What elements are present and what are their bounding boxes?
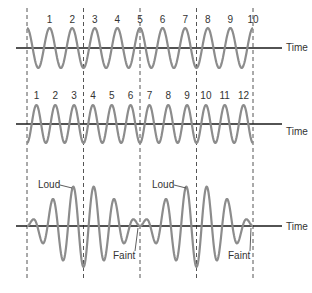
cycle-label-wave-a-10: 10 [247,15,258,25]
cycle-label-wave-b-8: 8 [165,91,171,101]
cycle-label-wave-a-2: 2 [69,15,75,25]
cycle-label-wave-b-2: 2 [52,91,58,101]
time-axis-label-top: Time [286,43,308,53]
annotation-leader-4 [250,228,251,251]
cycle-label-wave-b-12: 12 [238,91,249,101]
cycle-label-wave-b-6: 6 [128,91,134,101]
time-axis-label-middle: Time [286,127,308,137]
cycle-label-wave-b-5: 5 [109,91,115,101]
cycle-label-wave-a-4: 4 [115,15,121,25]
faint-annotation-2: Faint [228,251,250,261]
annotation-leader-1 [60,185,72,188]
cycle-label-wave-b-3: 3 [71,91,77,101]
loud-annotation-2: Loud [152,180,174,190]
cycle-label-wave-a-5: 5 [137,15,143,25]
cycle-label-wave-a-1: 1 [47,15,53,25]
faint-annotation-1: Faint [113,251,135,261]
cycle-label-wave-b-1: 1 [34,91,40,101]
wave-curves [27,28,253,267]
cycle-label-wave-b-4: 4 [90,91,96,101]
time-axis-label-bottom: Time [286,222,308,232]
cycle-label-wave-a-9: 9 [228,15,234,25]
cycle-label-wave-b-10: 10 [200,91,211,101]
loud-annotation-1: Loud [38,180,60,190]
cycle-label-wave-a-6: 6 [160,15,166,25]
time-axes [16,48,282,226]
cycle-label-wave-a-7: 7 [182,15,188,25]
cycle-label-wave-a-3: 3 [92,15,98,25]
cycle-label-wave-b-7: 7 [147,91,153,101]
annotation-leader-3 [174,185,186,188]
cycle-label-wave-a-8: 8 [205,15,211,25]
beats-diagram [0,0,312,293]
annotation-leader-2 [135,228,138,251]
cycle-label-wave-b-11: 11 [220,91,230,101]
cycle-label-wave-b-9: 9 [184,91,190,101]
